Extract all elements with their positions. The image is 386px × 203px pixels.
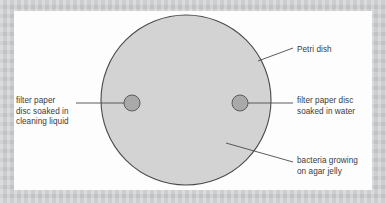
leader-line-petri-dish (258, 48, 293, 61)
filter-paper-disc-right (232, 95, 248, 111)
label-filter-paper-water: filter paper disc soaked in water (297, 96, 383, 117)
label-filter-paper-cleaning-liquid: filter paper disc soaked in cleaning liq… (16, 96, 86, 128)
label-petri-dish: Petri dish (297, 45, 379, 56)
filter-paper-disc-left (124, 95, 140, 111)
label-bacteria-agar-jelly: bacteria growing on agar jelly (297, 156, 383, 177)
figure-screenshot: filter paper disc soaked in cleaning liq… (0, 0, 386, 203)
